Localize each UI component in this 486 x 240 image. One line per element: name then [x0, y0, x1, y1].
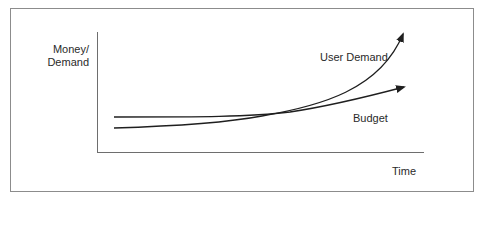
- y-axis-label-line2: Demand: [47, 56, 89, 69]
- budget-label: Budget: [353, 112, 388, 125]
- y-axis-label-line1: Money/: [47, 43, 89, 56]
- x-axis-label: Time: [392, 165, 416, 178]
- y-axis-label: Money/ Demand: [47, 43, 89, 69]
- user-demand-label: User Demand: [320, 51, 388, 64]
